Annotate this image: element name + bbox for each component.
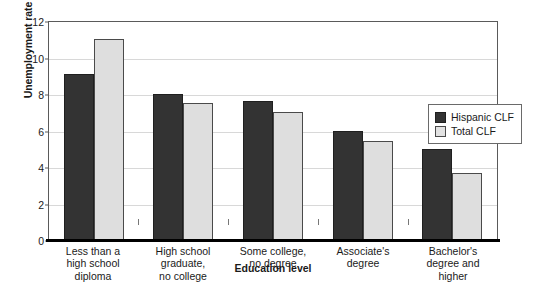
legend-item: Total CLF: [435, 124, 514, 138]
legend-swatch-total-clf: [435, 126, 446, 137]
bar-hispanic-clf: [333, 131, 363, 240]
x-axis-baseline: [46, 239, 500, 242]
bar-hispanic-clf: [422, 149, 452, 240]
y-axis-tick-label: 2: [38, 199, 44, 211]
bar-group: [139, 22, 229, 240]
bar-total-clf: [94, 39, 124, 240]
chart-legend: Hispanic CLF Total CLF: [428, 104, 522, 144]
legend-swatch-hispanic-clf: [435, 112, 446, 123]
bar-group: [49, 22, 139, 240]
y-axis-tick-label: 6: [38, 126, 44, 138]
bar-total-clf: [452, 173, 482, 240]
y-axis-tick-label: 0: [38, 235, 44, 247]
y-axis-tick-label: 10: [32, 53, 44, 65]
x-axis-separator: [318, 219, 319, 225]
bar-hispanic-clf: [243, 101, 273, 240]
bar-group: [318, 22, 408, 240]
legend-item: Hispanic CLF: [435, 110, 514, 124]
bar-group: [228, 22, 318, 240]
y-axis-tick-label: 4: [38, 162, 44, 174]
y-axis-tick-label: 12: [32, 16, 44, 28]
bar-hispanic-clf: [153, 94, 183, 240]
legend-label-hispanic-clf: Hispanic CLF: [451, 111, 514, 123]
x-axis-separator: [228, 219, 229, 225]
bar-total-clf: [363, 141, 393, 240]
bar-total-clf: [273, 112, 303, 240]
x-axis-title: Education level: [48, 262, 498, 274]
legend-label-total-clf: Total CLF: [451, 125, 496, 137]
unemployment-bar-chart: Unemployment rate 024681012 Less than ah…: [0, 0, 540, 286]
bar-total-clf: [183, 103, 213, 240]
x-axis-separator: [138, 219, 139, 225]
bar-hispanic-clf: [64, 74, 94, 240]
x-axis-separator: [408, 219, 409, 225]
y-axis-tick-label: 8: [38, 89, 44, 101]
